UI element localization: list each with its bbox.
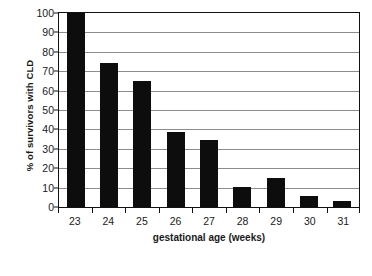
bar-slot — [259, 13, 292, 207]
x-tick-mark — [327, 208, 328, 213]
x-axis-title: gestational age (weeks) — [58, 232, 360, 243]
y-tick-label: 90 — [42, 26, 54, 38]
x-tick: 26 — [159, 208, 193, 230]
x-tick-label: 30 — [304, 215, 316, 227]
bar-slot — [92, 13, 125, 207]
x-tick: 29 — [259, 208, 293, 230]
y-tick-label: 70 — [42, 65, 54, 77]
x-tick: 25 — [125, 208, 159, 230]
bar — [233, 187, 251, 207]
x-tick: 30 — [293, 208, 327, 230]
x-tick-mark — [293, 208, 294, 213]
bar-slot — [192, 13, 225, 207]
x-tick: 24 — [92, 208, 126, 230]
x-tick: 31 — [327, 208, 361, 230]
bar — [333, 201, 351, 207]
bar-slot — [292, 13, 325, 207]
x-tick-label: 26 — [170, 215, 182, 227]
y-tick-label: 30 — [42, 143, 54, 155]
bar — [267, 178, 285, 207]
x-tick-mark — [159, 208, 160, 213]
x-axis-ticks: 232425262728293031 — [58, 208, 360, 230]
x-tick-mark — [125, 208, 126, 213]
bar — [133, 81, 151, 207]
y-tick-label: 50 — [42, 104, 54, 116]
y-tick-label: 60 — [42, 85, 54, 97]
x-tick-label: 31 — [337, 215, 349, 227]
x-tick: 23 — [58, 208, 92, 230]
bar-slot — [126, 13, 159, 207]
bar — [200, 140, 218, 207]
x-tick: 27 — [192, 208, 226, 230]
y-tick-label: 80 — [42, 46, 54, 58]
x-tick-mark — [92, 208, 93, 213]
x-tick-mark — [226, 208, 227, 213]
x-tick: 28 — [226, 208, 260, 230]
x-tick-label: 24 — [103, 215, 115, 227]
y-tick-label: 0 — [48, 201, 54, 213]
x-tick-mark — [359, 208, 360, 213]
bar — [67, 13, 85, 207]
y-tick-label: 20 — [42, 162, 54, 174]
x-tick-label: 29 — [270, 215, 282, 227]
x-tick-mark — [58, 208, 59, 213]
y-axis-title: % of survivors with CLD — [24, 26, 35, 206]
bar-chart: % of survivors with CLD 0102030405060708… — [0, 0, 372, 276]
bar-slot — [326, 13, 359, 207]
bar-slot — [226, 13, 259, 207]
bar — [300, 196, 318, 207]
y-tick-label: 10 — [42, 182, 54, 194]
x-tick-label: 28 — [237, 215, 249, 227]
y-tick-label: 100 — [36, 7, 54, 19]
bar-slot — [59, 13, 92, 207]
x-tick-label: 23 — [69, 215, 81, 227]
x-tick-label: 25 — [136, 215, 148, 227]
bar-slot — [159, 13, 192, 207]
bar — [100, 63, 118, 207]
x-tick-mark — [192, 208, 193, 213]
y-tick-label: 40 — [42, 123, 54, 135]
x-tick-label: 27 — [203, 215, 215, 227]
bar — [167, 132, 185, 207]
x-tick-mark — [259, 208, 260, 213]
bar-series — [59, 13, 359, 207]
plot-area: 0102030405060708090100 — [58, 12, 360, 208]
